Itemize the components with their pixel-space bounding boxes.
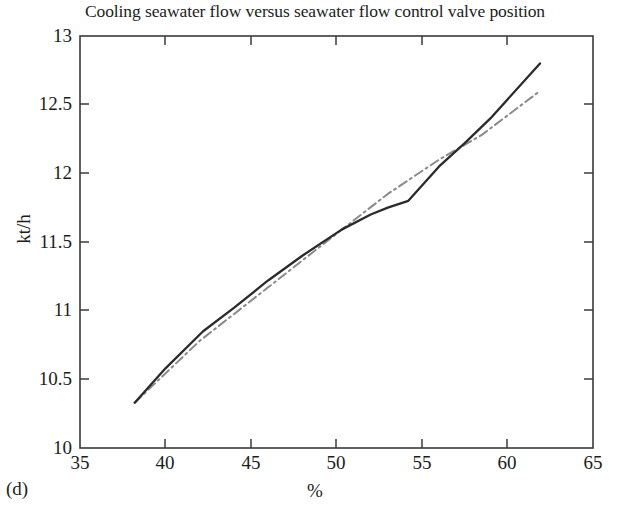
y-tick-12_5: 12.5 [22, 93, 72, 115]
y-tick-11: 11 [22, 299, 72, 321]
data-series-layer [135, 63, 540, 402]
x-tick-35: 35 [71, 452, 90, 474]
series-line-measured [135, 63, 540, 402]
x-tick-55: 55 [413, 452, 432, 474]
x-tick-60: 60 [498, 452, 517, 474]
y-axis-title: kt/h [13, 199, 35, 259]
series-line-model [135, 91, 540, 403]
axes-frame [80, 36, 593, 448]
panel-caption: (d) [6, 478, 28, 500]
y-tick-10_5: 10.5 [22, 368, 72, 390]
plot-canvas [0, 0, 630, 510]
x-axis-title: % [0, 480, 630, 502]
x-tick-50: 50 [327, 452, 346, 474]
tick-marks [80, 36, 593, 448]
x-tick-65: 65 [584, 452, 603, 474]
y-tick-10: 10 [22, 437, 72, 459]
x-tick-40: 40 [156, 452, 175, 474]
x-tick-45: 45 [242, 452, 261, 474]
y-tick-13: 13 [22, 25, 72, 47]
figure-panel: Cooling seawater flow versus seawater fl… [0, 0, 630, 510]
y-tick-12: 12 [22, 162, 72, 184]
